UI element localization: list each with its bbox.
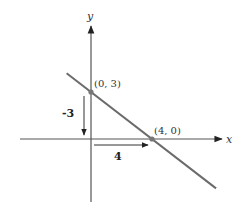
series-layer xyxy=(67,73,216,188)
chart: x y -3 4 (0, 3) (4, 0) xyxy=(0,0,245,208)
x-axis-label: x xyxy=(226,133,233,146)
point-label-4-0: (4, 0) xyxy=(154,125,181,136)
point-marker-0 xyxy=(88,89,93,94)
y-axis-label: y xyxy=(86,10,94,23)
rise-label: -3 xyxy=(62,107,74,120)
run-label: 4 xyxy=(114,150,122,163)
point-label-0-3: (0, 3) xyxy=(94,78,121,89)
point-marker-1 xyxy=(149,136,154,141)
